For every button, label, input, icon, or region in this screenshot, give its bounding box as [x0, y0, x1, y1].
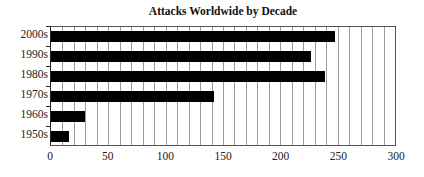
chart-title: Attacks Worldwide by Decade [50, 5, 396, 17]
gridline [85, 27, 86, 145]
bar-1990s [51, 51, 311, 62]
y-tick-mark [46, 86, 50, 87]
gridline [303, 27, 304, 145]
gridline [108, 27, 109, 145]
bar-2000s [51, 31, 335, 42]
gridline [120, 27, 121, 145]
gridline [97, 27, 98, 145]
gridline [131, 27, 132, 145]
gridline [62, 27, 63, 145]
x-tick-label: 50 [102, 150, 114, 162]
gridline [189, 27, 190, 145]
gridline [154, 27, 155, 145]
x-tick-label: 250 [330, 150, 347, 162]
y-tick-mark [46, 26, 50, 27]
y-tick-label: 1950s [21, 128, 48, 140]
bar-1980s [51, 71, 325, 82]
gridline [292, 27, 293, 145]
y-tick-label: 1960s [21, 108, 48, 120]
x-tick-label: 300 [387, 150, 404, 162]
gridline [315, 27, 316, 145]
y-tick-label: 2000s [21, 28, 48, 40]
y-tick-mark [46, 46, 50, 47]
gridline [177, 27, 178, 145]
y-tick-mark [46, 66, 50, 67]
gridline [200, 27, 201, 145]
gridline [384, 27, 385, 145]
gridline [234, 27, 235, 145]
y-tick-label: 1980s [21, 68, 48, 80]
gridline [269, 27, 270, 145]
x-tick-label: 150 [214, 150, 231, 162]
gridline [223, 27, 224, 145]
gridline [372, 27, 373, 145]
gridline [361, 27, 362, 145]
gridline [338, 27, 339, 145]
y-tick-mark [46, 126, 50, 127]
bar-1960s [51, 111, 85, 122]
x-tick-label: 0 [47, 150, 53, 162]
gridline [280, 27, 281, 145]
x-tick-label: 100 [157, 150, 174, 162]
gridline [326, 27, 327, 145]
gridline [143, 27, 144, 145]
gridline [212, 27, 213, 145]
gridline [349, 27, 350, 145]
y-tick-mark [46, 106, 50, 107]
gridline [246, 27, 247, 145]
y-tick-label: 1990s [21, 48, 48, 60]
plot-area [50, 26, 396, 146]
gridline [166, 27, 167, 145]
gridline [74, 27, 75, 145]
gridline [257, 27, 258, 145]
bar-1950s [51, 131, 69, 142]
y-tick-label: 1970s [21, 88, 48, 100]
bar-1970s [51, 91, 214, 102]
x-tick-label: 200 [272, 150, 289, 162]
